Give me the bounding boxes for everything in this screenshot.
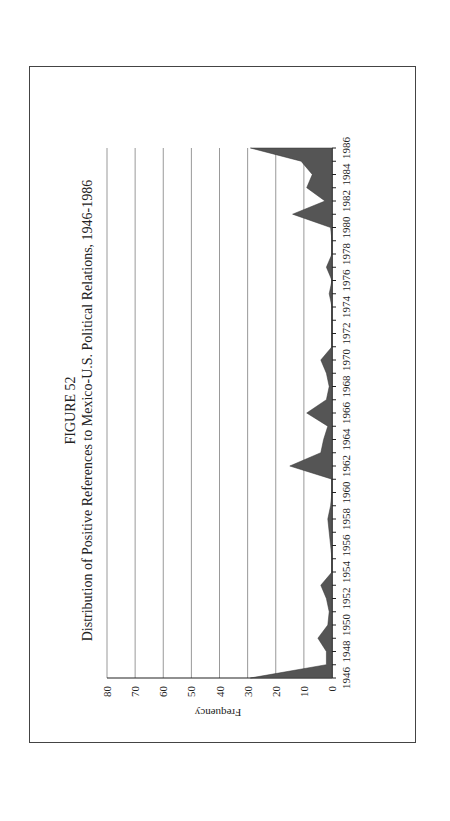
x-tick-label: 1986	[340, 137, 352, 160]
x-tick-label: 1978	[340, 243, 352, 266]
x-tick-label: 1976	[340, 269, 352, 292]
area-series	[250, 148, 332, 678]
y-tick-label: 10	[298, 686, 310, 698]
area-chart: 0102030405060708019461948195019521954195…	[0, 0, 450, 821]
y-axis-title: Frequency	[194, 707, 240, 719]
x-tick-label: 1964	[340, 428, 352, 451]
x-tick-label: 1980	[340, 216, 352, 239]
x-tick-label: 1972	[340, 323, 352, 345]
y-tick-label: 80	[101, 686, 113, 698]
y-tick-label: 50	[185, 686, 197, 698]
x-tick-label: 1966	[340, 402, 352, 425]
x-tick-label: 1948	[340, 640, 352, 663]
y-tick-label: 40	[214, 686, 226, 698]
y-tick-label: 70	[129, 686, 141, 698]
x-tick-label: 1982	[340, 190, 352, 212]
x-tick-label: 1952	[340, 588, 352, 610]
x-tick-label: 1974	[340, 296, 352, 319]
y-tick-label: 20	[270, 686, 282, 698]
y-tick-label: 60	[157, 686, 169, 698]
x-tick-label: 1962	[340, 455, 352, 477]
y-tick-label: 30	[242, 686, 254, 698]
x-tick-label: 1960	[340, 481, 352, 504]
x-tick-label: 1950	[340, 614, 352, 637]
y-tick-label: 0	[326, 686, 338, 692]
x-tick-label: 1970	[340, 349, 352, 372]
x-tick-label: 1958	[340, 508, 352, 531]
x-tick-label: 1946	[340, 667, 352, 690]
x-tick-label: 1968	[340, 375, 352, 398]
x-tick-label: 1954	[340, 561, 352, 584]
rotated-figure: FIGURE 52 Distribution of Positive Refer…	[0, 0, 450, 821]
x-tick-label: 1984	[340, 163, 352, 186]
x-tick-label: 1956	[340, 534, 352, 557]
